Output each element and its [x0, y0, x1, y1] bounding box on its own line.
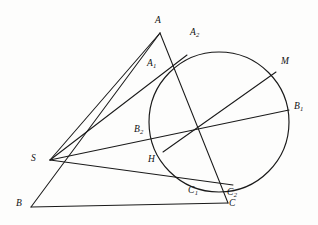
- label-point-M: M: [281, 57, 289, 67]
- label-point-B2: B2: [134, 125, 143, 135]
- label-point-B: B: [16, 199, 22, 209]
- segment-side-BC: [31, 203, 228, 207]
- segment-side-AC: [160, 33, 228, 203]
- label-point-S: S: [31, 154, 36, 164]
- label-point-H: H: [148, 155, 155, 165]
- segment-side-AB: [31, 33, 160, 207]
- label-point-C2: C2: [227, 188, 237, 198]
- label-point-C1: C1: [188, 186, 198, 196]
- label-point-C: C: [229, 199, 235, 209]
- geometry-figure: A A1 A2 M B1 B2 S H C1 C2 B C: [0, 0, 318, 225]
- label-point-A1: A1: [147, 59, 156, 69]
- segment-S-to-B1: [50, 110, 289, 160]
- segment-S-to-A2: [50, 55, 187, 160]
- label-point-B1: B1: [294, 102, 303, 112]
- geometry-canvas: [0, 0, 318, 225]
- segment-S-to-C2: [50, 160, 233, 185]
- label-point-A: A: [155, 16, 161, 26]
- label-point-A2: A2: [190, 28, 199, 38]
- main-circle: [149, 52, 289, 192]
